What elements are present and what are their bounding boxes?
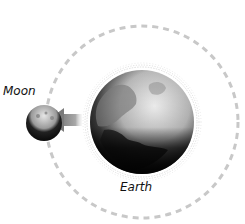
- moon-globe: [26, 105, 62, 141]
- earth-globe: [90, 70, 194, 174]
- moon-label: Moon: [3, 84, 36, 98]
- earth-label: Earth: [120, 180, 152, 194]
